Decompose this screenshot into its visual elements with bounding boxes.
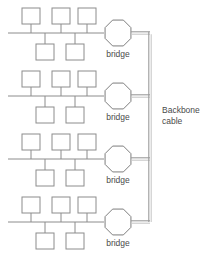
segment-2-top-node-2 — [52, 71, 70, 87]
segment-1-bottom-node-2 — [66, 44, 84, 60]
segment-3-bridge-label: bridge — [106, 175, 130, 185]
network-diagram: bridgebridgebridgebridge Backbone cable — [0, 0, 212, 260]
segment-4-bridge-label: bridge — [106, 238, 130, 248]
segment-1-top-node-2 — [52, 8, 70, 24]
segment-1-top-node-1 — [22, 8, 40, 24]
segment-2-bottom-node-2 — [66, 107, 84, 123]
segment-2-top-node-3 — [78, 71, 96, 87]
segment-2-bridge-icon — [105, 83, 131, 109]
segment-1-group: bridge — [8, 8, 150, 60]
segment-2-bridge-label: bridge — [106, 112, 130, 122]
backbone-cable-label: Backbone cable — [162, 105, 212, 127]
segment-3-top-node-1 — [22, 134, 40, 150]
segment-4-top-node-3 — [78, 197, 96, 213]
backbone-label-line1: Backbone — [162, 105, 212, 116]
segment-3-top-node-3 — [78, 134, 96, 150]
segment-3-group: bridge — [8, 134, 150, 186]
segment-4-bridge-icon — [105, 209, 131, 235]
segment-4-group: bridge — [8, 197, 150, 249]
segment-2-group: bridge — [8, 71, 150, 123]
segment-1-bottom-node-1 — [36, 44, 54, 60]
segment-3-bottom-node-1 — [36, 170, 54, 186]
segment-2-top-node-1 — [22, 71, 40, 87]
segment-2-bottom-node-1 — [36, 107, 54, 123]
segment-3-top-node-2 — [52, 134, 70, 150]
segment-3-bottom-node-2 — [66, 170, 84, 186]
segment-1-bridge-icon — [105, 20, 131, 46]
segment-4-top-node-1 — [22, 197, 40, 213]
segment-4-bottom-node-2 — [66, 233, 84, 249]
segment-1-bridge-label: bridge — [106, 49, 130, 59]
segment-4-top-node-2 — [52, 197, 70, 213]
segment-4-bottom-node-1 — [36, 233, 54, 249]
segment-3-bridge-icon — [105, 146, 131, 172]
backbone-cable — [149, 32, 151, 222]
segment-1-top-node-3 — [78, 8, 96, 24]
backbone-label-line2: cable — [162, 116, 212, 127]
diagram-canvas: bridgebridgebridgebridge — [0, 0, 212, 260]
